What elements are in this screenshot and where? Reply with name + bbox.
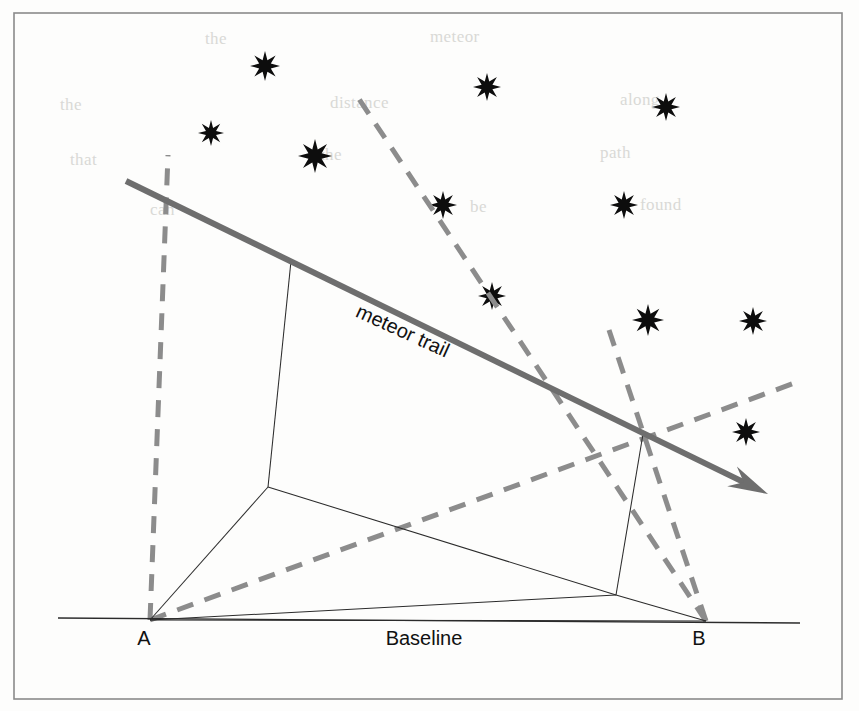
meteor-triangulation-diagram: themeteorthedistancealongthatthepathcanb…: [0, 0, 859, 711]
star-icon: [632, 304, 664, 336]
bleed-text-line: found: [640, 195, 682, 214]
baseline-label: Baseline: [386, 627, 463, 649]
station-b-label: B: [692, 627, 705, 649]
star-icon: [652, 93, 680, 121]
star-icon: [739, 307, 767, 335]
star-icon: [298, 139, 332, 173]
bleed-text-line: path: [600, 143, 631, 162]
bleed-text-line: the: [60, 95, 82, 114]
bleed-text-line: that: [70, 150, 97, 169]
bleed-text-line: the: [205, 29, 227, 48]
bleed-text-line: be: [470, 197, 487, 216]
star-icon: [473, 73, 501, 101]
figure-page: themeteorthedistancealongthatthepathcanb…: [0, 0, 859, 711]
station-a-label: A: [137, 627, 151, 649]
star-icon: [610, 191, 638, 219]
bleed-text-line: along: [620, 90, 660, 109]
paper-background: [0, 0, 859, 711]
star-icon: [732, 418, 760, 446]
star-icon: [250, 51, 280, 81]
bleed-text-line: meteor: [430, 27, 480, 46]
star-icon: [429, 191, 457, 219]
star-icon: [198, 120, 224, 146]
